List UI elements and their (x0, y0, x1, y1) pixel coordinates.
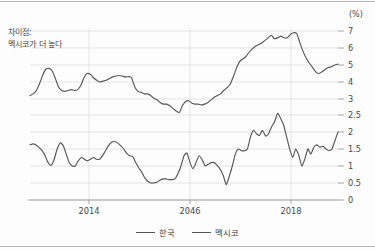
legend-label-mexico: 멕시코 (215, 226, 239, 238)
y-tick-label: 0.5 (348, 178, 361, 188)
chart-container: 765432.521.510.50 201420462018 (%) 차이점: … (0, 0, 375, 250)
legend-label-korea: 한국 (159, 226, 175, 238)
y-tick-label: 7 (348, 26, 353, 36)
y-tick-label: 2.5 (348, 110, 361, 120)
annotation-line-2: 멕시코가 더 높다 (8, 39, 62, 51)
y-tick-label: 1.5 (348, 144, 361, 154)
bottom-divider (0, 246, 375, 247)
x-tick-label: 2046 (179, 206, 200, 216)
y-axis-unit-label: (%) (349, 10, 363, 19)
gridlines-group (30, 31, 344, 200)
y-tick-label: 0 (348, 195, 353, 205)
x-axis-tick-labels: 201420462018 (78, 206, 301, 216)
legend-line-swatch-korea (136, 232, 155, 233)
y-tick-label: 5 (348, 60, 353, 70)
y-axis-tick-labels: 765432.521.510.50 (348, 26, 361, 205)
chart-legend: 한국 멕시코 (0, 226, 375, 238)
vertical-gridlines-group (89, 28, 291, 204)
legend-item-mexico[interactable]: 멕시코 (192, 226, 239, 238)
x-tick-label: 2014 (78, 206, 99, 216)
y-tick-label: 4 (348, 77, 353, 87)
x-tick-label: 2018 (280, 206, 301, 216)
y-tick-label: 6 (348, 43, 353, 53)
legend-item-korea[interactable]: 한국 (136, 226, 175, 238)
chart-annotation: 차이점: 멕시코가 더 높다 (8, 27, 62, 50)
annotation-line-1: 차이점: (8, 27, 62, 39)
y-tick-label: 3 (348, 94, 353, 104)
y-tick-label: 1 (348, 161, 353, 171)
series-line-mexico (30, 33, 338, 113)
legend-line-swatch-mexico (192, 232, 211, 233)
y-tick-label: 2 (348, 127, 353, 137)
